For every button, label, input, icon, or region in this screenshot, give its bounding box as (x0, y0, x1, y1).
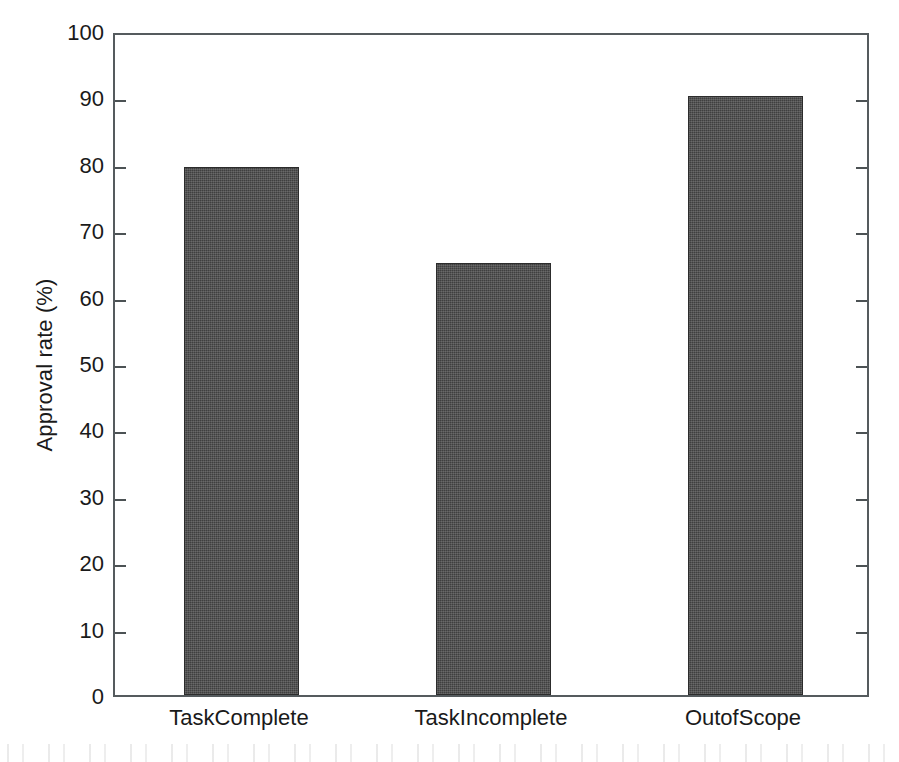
y-tick-mark-right (856, 565, 867, 567)
y-tick-label: 100 (67, 22, 104, 44)
y-tick-mark-left (115, 300, 126, 302)
y-tick-label: 10 (80, 620, 104, 642)
y-tick-label: 50 (80, 354, 104, 376)
y-tick-mark-left (115, 632, 126, 634)
y-tick-mark-left (115, 233, 126, 235)
y-tick-mark-left (115, 565, 126, 567)
y-tick-mark-right (856, 167, 867, 169)
y-tick-label: 30 (80, 487, 104, 509)
page-caption-smudge (0, 744, 899, 762)
figure-canvas: Approval rate (%) 0102030405060708090100… (0, 0, 899, 762)
y-tick-mark-right (856, 366, 867, 368)
bar (184, 167, 299, 695)
x-tick-label: OutofScope (593, 706, 893, 730)
y-tick-mark-right (856, 499, 867, 501)
y-tick-label: 40 (80, 420, 104, 442)
y-tick-mark-left (115, 366, 126, 368)
y-tick-label: 90 (80, 88, 104, 110)
y-tick-mark-right (856, 632, 867, 634)
y-tick-mark-right (856, 432, 867, 434)
y-tick-mark-left (115, 167, 126, 169)
y-tick-mark-right (856, 300, 867, 302)
y-tick-label: 0 (92, 686, 104, 708)
y-tick-mark-right (856, 100, 867, 102)
y-tick-mark-left (115, 499, 126, 501)
bar (688, 96, 803, 695)
y-tick-label: 70 (80, 221, 104, 243)
y-axis-label: Approval rate (%) (30, 33, 60, 697)
y-tick-label: 80 (80, 155, 104, 177)
y-tick-label: 60 (80, 288, 104, 310)
plot-area (113, 33, 869, 697)
y-tick-mark-right (856, 233, 867, 235)
bar (436, 263, 551, 695)
y-tick-label: 20 (80, 553, 104, 575)
y-tick-mark-left (115, 100, 126, 102)
y-tick-mark-left (115, 432, 126, 434)
